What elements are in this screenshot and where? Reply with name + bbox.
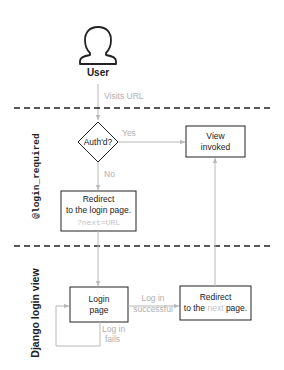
redirect-login-line2: to the login page. bbox=[66, 205, 131, 215]
edge-label-login-fails-1: Log in bbox=[102, 324, 125, 334]
redirect-next-post: page. bbox=[224, 303, 248, 313]
view-invoked-line2: invoked bbox=[201, 142, 231, 152]
redirect-login-next-param: ?next=URL bbox=[77, 218, 120, 227]
edge-label-yes: Yes bbox=[122, 128, 136, 138]
lane-label-django-login-view: Django login view bbox=[29, 268, 41, 358]
edge-label-login-fails-2: fails bbox=[105, 334, 120, 344]
redirect-next-line1: Redirect bbox=[200, 292, 232, 302]
redirect-next-code: next bbox=[207, 303, 224, 313]
user-silhouette-icon bbox=[80, 27, 116, 64]
view-invoked-line1: View bbox=[206, 131, 225, 141]
actor-label: User bbox=[87, 67, 109, 78]
edge-label-login-successful-1: Log in bbox=[141, 293, 164, 303]
redirect-next-line2: to the next page. bbox=[184, 303, 247, 313]
login-page-line1: Login bbox=[89, 294, 110, 304]
login-page-line2: page bbox=[90, 305, 109, 315]
edge-label-login-successful-2: successful bbox=[133, 304, 173, 314]
edge-label-visits-url: Visits URL bbox=[104, 91, 144, 101]
redirect-next-pre: to the bbox=[184, 303, 208, 313]
redirect-login-line1: Redirect bbox=[83, 194, 115, 204]
login-flow-diagram: User Visits URL @login_required Django l… bbox=[0, 0, 284, 370]
lane-label-login-required: @login_required bbox=[31, 133, 42, 219]
edge-label-no: No bbox=[104, 169, 115, 179]
decision-label: Auth'd? bbox=[84, 137, 113, 147]
